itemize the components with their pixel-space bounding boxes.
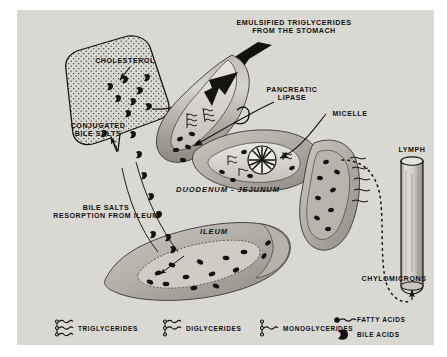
legend-label-monoglycerides: MONOGLYCERIDES <box>283 325 353 332</box>
figure-root: EMULSIFIED TRIGLYCERIDES FROM THE STOMAC… <box>0 0 447 357</box>
legend-label-bile-acids: BILE ACIDS <box>357 331 400 338</box>
legend-label-diglycerides: DIGLYCERIDES <box>186 325 241 332</box>
legend-symbols <box>0 0 447 357</box>
monoglycerides-icon <box>261 320 279 336</box>
fatty-acids-icon <box>334 317 356 323</box>
diglycerides-icon <box>164 320 182 336</box>
legend-label-triglycerides: TRIGLYCERIDES <box>78 325 138 332</box>
legend-label-fatty-acids: FATTY ACIDS <box>357 316 405 323</box>
triglycerides-icon <box>56 320 74 336</box>
